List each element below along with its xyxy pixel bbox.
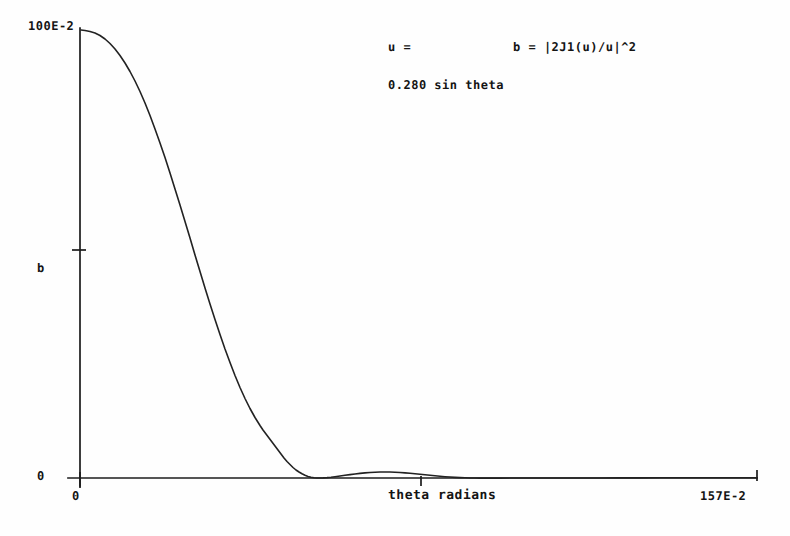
annotation-formula: b = |2J1(u)/u|^2: [513, 41, 637, 53]
annotation-variable-label: u =: [388, 41, 411, 53]
annotation-variable-value: 0.280 sin theta: [388, 79, 504, 91]
x-axis-max-label: 157E-2: [700, 490, 746, 502]
x-axis-min-label: 0: [72, 490, 80, 502]
x-axis-title: theta radians: [388, 489, 496, 502]
airy-pattern-curve: [81, 30, 757, 478]
y-axis-max-label: 100E-2: [28, 20, 74, 32]
plot-canvas: 100E-2 0 b 0 157E-2 theta radians u = b …: [0, 0, 790, 536]
y-axis-min-label: 0: [37, 470, 45, 482]
y-axis-title: b: [37, 262, 45, 274]
